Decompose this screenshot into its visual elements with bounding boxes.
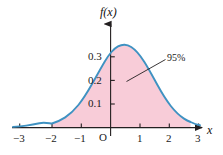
y-tick-label-0.2: 0.2	[88, 75, 102, 86]
percent-annotation-label: 95%	[167, 53, 185, 63]
y-tick-label-0.3: 0.3	[88, 51, 102, 62]
x-tick-label-1: 1	[137, 133, 143, 144]
origin-label: O	[99, 132, 107, 143]
distribution-plot	[0, 0, 223, 155]
x-tick-label-minus3: −3	[13, 133, 25, 144]
y-tick-label-0.1: 0.1	[88, 98, 102, 109]
x-tick-label-minus2: −2	[45, 133, 57, 144]
x-axis-label: x	[207, 124, 212, 136]
normal-distribution-figure: f(x) x 0.3 0.2 0.1 −3 −2 −1 1 2 3 O 95%	[0, 0, 223, 155]
x-tick-label-minus1: −1	[74, 133, 86, 144]
x-tick-label-2: 2	[166, 133, 172, 144]
x-tick-label-3: 3	[195, 133, 201, 144]
y-axis-label: f(x)	[100, 6, 117, 18]
